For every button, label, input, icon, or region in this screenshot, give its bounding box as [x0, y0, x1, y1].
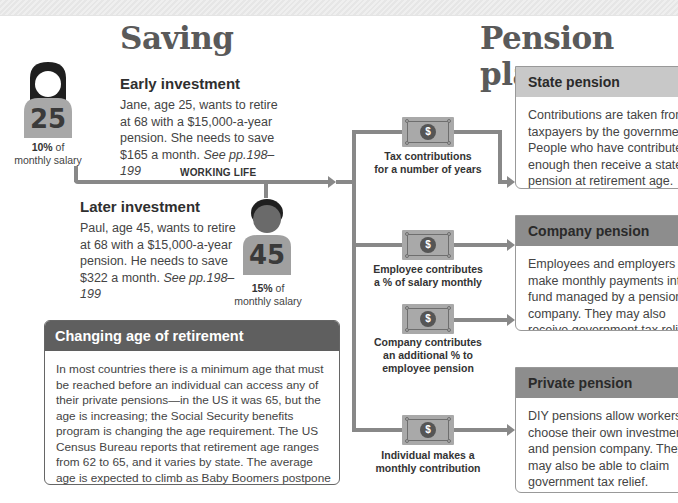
saving-title: Saving	[120, 20, 233, 56]
later-investment-text: Paul, age 45, wants to retire at 68 with…	[80, 220, 238, 303]
flow-line-paul-up	[264, 182, 268, 198]
state-pension-box: State pension Contributions are taken fr…	[515, 66, 678, 189]
state-pension-heading: State pension	[516, 67, 678, 97]
early-investment-heading: Early investment	[120, 75, 240, 92]
company-arrow-icon-2	[507, 314, 515, 326]
private-arrow-icon	[507, 424, 515, 436]
top-hatched-strip	[0, 0, 678, 16]
individual-contribution-caption: Individual makes amonthly contribution	[366, 449, 490, 475]
jane-figure: 25	[20, 60, 76, 138]
private-pension-heading: Private pension	[516, 368, 678, 398]
state-pension-text: Contributions are taken from taxpayers b…	[516, 97, 678, 189]
paul-figure: 45	[239, 197, 295, 275]
changing-age-text: In most countries there is a minimum age…	[45, 351, 339, 485]
private-pension-text: DIY pensions allow workers to choose the…	[516, 398, 678, 493]
dollar-note-icon: $	[402, 415, 454, 445]
jane-percent-label: 10% of monthly salary	[0, 141, 96, 167]
dollar-note-icon: $	[402, 304, 454, 334]
working-life-arrow-icon	[328, 176, 336, 188]
changing-age-heading: Changing age of retirement	[45, 321, 339, 351]
company-pension-heading: Company pension	[516, 216, 678, 246]
company-arrow-icon-1	[507, 239, 515, 251]
dollar-note-icon: $	[402, 230, 454, 260]
jane-age: 25	[20, 104, 76, 134]
company-pension-text: Employees and employers make monthly pay…	[516, 246, 678, 331]
branch-line-tax-down	[498, 130, 502, 182]
working-life-label: WORKING LIFE	[180, 167, 256, 178]
state-arrow-icon	[507, 176, 515, 188]
private-pension-box: Private pension DIY pensions allow worke…	[515, 367, 678, 493]
flow-line-working-life	[74, 180, 332, 184]
changing-age-box: Changing age of retirement In most count…	[44, 320, 340, 485]
employee-contributes-caption: Employee contributesa % of salary monthl…	[366, 263, 490, 289]
company-contributes-caption: Company contributesan additional % toemp…	[366, 336, 490, 375]
paul-age: 45	[239, 240, 295, 270]
company-pension-box: Company pension Employees and employers …	[515, 215, 678, 331]
tax-contributions-caption: Tax contributionsfor a number of years	[370, 150, 486, 176]
flow-trunk-vertical	[352, 130, 356, 432]
dollar-note-icon: $	[402, 117, 454, 147]
later-investment-heading: Later investment	[80, 198, 200, 215]
